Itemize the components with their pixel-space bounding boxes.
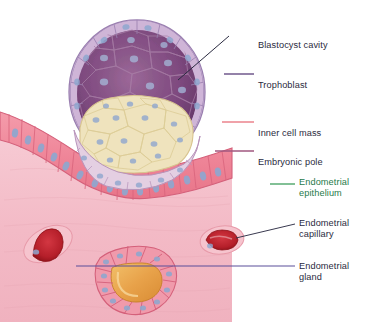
leader-endometrial-capillary xyxy=(236,224,295,238)
label-trophoblast: Trophoblast xyxy=(258,69,307,91)
label-endometrial-capillary: Endometrial capillary xyxy=(299,218,349,240)
label-trophoblast-text: Trophoblast xyxy=(258,80,307,90)
label-embryonic-pole: Embryonic pole xyxy=(258,146,323,168)
label-blastocyst-cavity-text: Blastocyst cavity xyxy=(258,40,328,50)
blastocyst xyxy=(69,20,205,190)
label-endometrial-epithelium: Endometrial epithelium xyxy=(299,177,349,199)
label-inner-cell-mass: Inner cell mass xyxy=(258,117,321,139)
figure-canvas: Blastocyst cavity Trophoblast Inner cell… xyxy=(0,0,368,322)
label-inner-cell-mass-text: Inner cell mass xyxy=(258,128,321,138)
label-embryonic-pole-text: Embryonic pole xyxy=(258,157,323,167)
label-blastocyst-cavity: Blastocyst cavity xyxy=(258,29,328,51)
label-endometrial-gland: Endometrial gland xyxy=(299,261,349,283)
